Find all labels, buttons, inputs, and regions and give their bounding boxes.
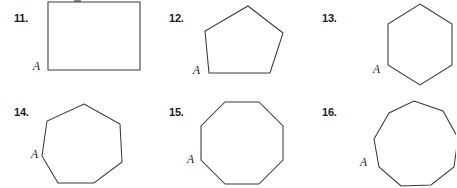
rectangle-shape-11 (0, 0, 152, 94)
exercise-14: 14. A (0, 94, 152, 188)
polygon-outline (42, 104, 122, 183)
octagon-shape-15 (152, 94, 304, 188)
pentagon-shape-12 (152, 0, 304, 94)
polygon-outline (48, 2, 140, 70)
vertex-label-a-11: A (33, 61, 40, 73)
polygon-outline (388, 4, 452, 85)
exercise-figure-grid: 11. A 12. A 13. A 14. A 15. A (0, 0, 457, 188)
vertex-label-a-14: A (31, 149, 38, 161)
vertex-label-a-12: A (193, 65, 200, 77)
polygon-outline (201, 102, 283, 184)
exercise-11: 11. A (0, 0, 152, 94)
exercise-12: 12. A (152, 0, 304, 94)
exercise-13: 13. A (304, 0, 456, 94)
vertex-label-a-15: A (187, 154, 194, 166)
polygon-outline (205, 6, 283, 73)
exercise-16: 16. A (304, 94, 456, 188)
hexagon-shape-13 (304, 0, 456, 94)
vertex-label-a-13: A (373, 64, 380, 76)
vertex-label-a-16: A (360, 157, 367, 169)
polygon-outline (374, 101, 456, 186)
nonagon-shape-16 (304, 94, 456, 188)
exercise-15: 15. A (152, 94, 304, 188)
heptagon-shape-14 (0, 94, 152, 188)
